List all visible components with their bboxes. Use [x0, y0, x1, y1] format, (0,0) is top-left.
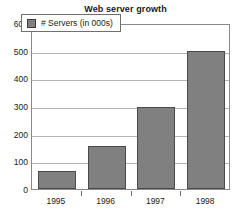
legend-swatch-icon — [27, 19, 36, 28]
bar-slot — [88, 25, 126, 189]
bar-slot — [187, 25, 225, 189]
x-axis-tick-label: 1995 — [31, 196, 81, 206]
x-axis-tick-label: 1997 — [131, 196, 181, 206]
plot-area — [31, 24, 230, 190]
bar-slot — [38, 25, 76, 189]
chart-title: Web server growth — [0, 4, 251, 14]
bar[interactable] — [187, 51, 225, 189]
x-axis-tick-mark — [131, 191, 132, 196]
y-axis-tick-label: 300 — [2, 102, 28, 112]
x-axis-tick-label: 1996 — [81, 196, 131, 206]
y-axis-tick-label: 500 — [2, 47, 28, 57]
y-axis-tick-labels: 0100200300400500600 — [0, 0, 28, 223]
bar[interactable] — [38, 171, 76, 189]
x-axis-tick-mark — [180, 191, 181, 196]
y-axis-tick-label: 0 — [2, 185, 28, 195]
y-axis-tick-label: 100 — [2, 157, 28, 167]
bar[interactable] — [137, 107, 175, 189]
y-axis-tick-label: 400 — [2, 74, 28, 84]
y-axis-tick-label: 200 — [2, 130, 28, 140]
x-axis-tick-label: 1998 — [180, 196, 230, 206]
legend-label: # Servers (in 000s) — [41, 18, 113, 28]
bar-slot — [137, 25, 175, 189]
bar[interactable] — [88, 146, 126, 189]
bar-chart: Web server growth 0100200300400500600 19… — [0, 0, 251, 223]
x-axis-tick-mark — [81, 191, 82, 196]
x-axis-tick-labels: 1995199619971998 — [31, 196, 230, 210]
bars-container — [32, 25, 229, 189]
chart-legend: # Servers (in 000s) — [21, 14, 121, 32]
